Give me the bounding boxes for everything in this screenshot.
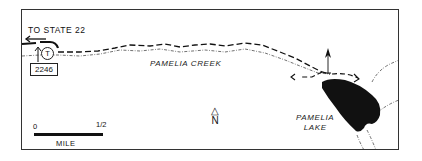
lake-label-line1: PAMELIA (296, 113, 334, 123)
scale-unit-label: MILE (56, 139, 76, 148)
north-label: N (211, 116, 219, 126)
lake-label-line2: LAKE (296, 123, 334, 133)
north-arrow: △ N (211, 106, 219, 126)
trailhead-icon: T (41, 47, 54, 60)
scale-bar (34, 133, 103, 136)
scale-start-label: 0 (33, 122, 37, 131)
highway-label: TO STATE 22 (28, 25, 85, 35)
trail-number-badge: 2246 (30, 63, 58, 76)
trail-map: TO STATE 22 T 2246 PAMELIA CREEK PAMELIA… (0, 0, 422, 161)
creek-label: PAMELIA CREEK (150, 59, 221, 68)
lake-label: PAMELIA LAKE (296, 113, 334, 133)
scale-end-label: 1/2 (96, 120, 106, 129)
campsite-tent-icon (325, 48, 331, 74)
